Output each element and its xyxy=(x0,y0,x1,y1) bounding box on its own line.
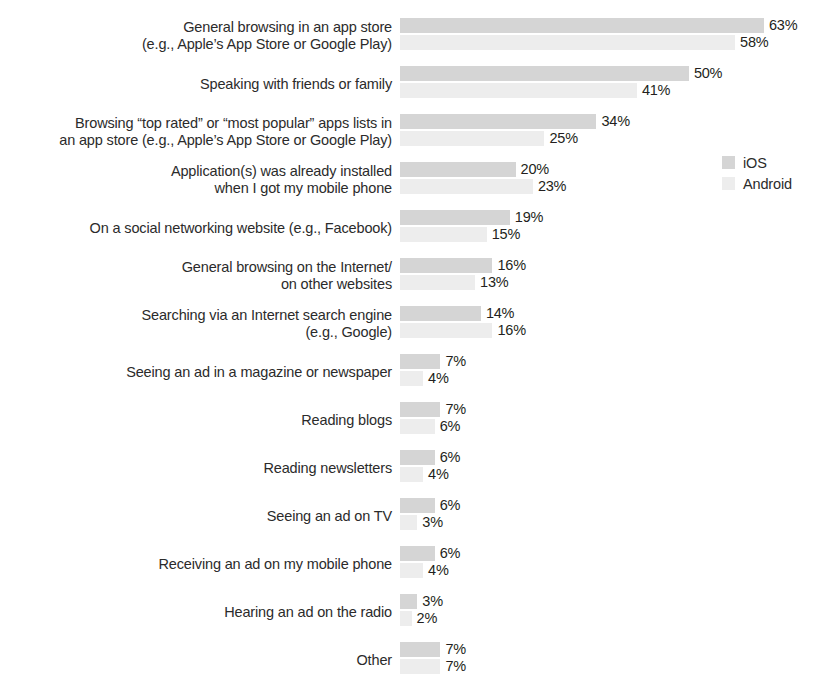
bar-track-android: 3% xyxy=(400,515,443,530)
bar-value-android: 15% xyxy=(487,227,520,242)
bar-android xyxy=(400,179,533,194)
chart-row: Searching via an Internet search engine … xyxy=(0,302,838,346)
bar-value-android: 13% xyxy=(475,275,508,290)
bar-group: 19%15% xyxy=(400,208,838,248)
bar-track-android: 25% xyxy=(400,131,578,146)
bar-android xyxy=(400,323,492,338)
chart-row: Application(s) was already installed whe… xyxy=(0,158,838,202)
bar-track-ios: 34% xyxy=(400,114,630,129)
chart-row: General browsing in an app store (e.g., … xyxy=(0,14,838,58)
bar-track-ios: 14% xyxy=(400,306,514,321)
bar-value-ios: 6% xyxy=(435,498,461,513)
bar-track-android: 4% xyxy=(400,467,449,482)
category-label: Hearing an ad on the radio xyxy=(0,604,400,621)
bar-android xyxy=(400,35,735,50)
bar-group: 7%7% xyxy=(400,640,838,680)
chart-row: General browsing on the Internet/ on oth… xyxy=(0,254,838,298)
category-label: Application(s) was already installed whe… xyxy=(0,163,400,197)
bar-group: 63%58% xyxy=(400,16,838,56)
bar-android xyxy=(400,563,423,578)
bar-track-ios: 6% xyxy=(400,450,460,465)
bar-track-android: 58% xyxy=(400,35,769,50)
bar-group: 7%6% xyxy=(400,400,838,440)
category-label: Seeing an ad on TV xyxy=(0,508,400,525)
bar-track-ios: 19% xyxy=(400,210,543,225)
bar-ios xyxy=(400,402,440,417)
category-label: Reading blogs xyxy=(0,412,400,429)
bar-value-android: 4% xyxy=(423,371,449,386)
bar-value-ios: 6% xyxy=(435,546,461,561)
bar-ios xyxy=(400,162,516,177)
legend-item-ios: iOS xyxy=(722,152,832,173)
bar-value-ios: 16% xyxy=(492,258,525,273)
category-label: Searching via an Internet search engine … xyxy=(0,307,400,341)
bar-track-ios: 63% xyxy=(400,18,797,33)
bar-track-android: 41% xyxy=(400,83,670,98)
bar-ios xyxy=(400,546,435,561)
bar-android xyxy=(400,275,475,290)
bar-android xyxy=(400,515,417,530)
bar-value-android: 16% xyxy=(492,323,525,338)
bar-value-android: 4% xyxy=(423,563,449,578)
bar-track-android: 13% xyxy=(400,275,509,290)
chart-row: Receiving an ad on my mobile phone6%4% xyxy=(0,542,838,586)
bar-ios xyxy=(400,354,440,369)
chart-row: Reading blogs7%6% xyxy=(0,398,838,442)
bar-track-android: 2% xyxy=(400,611,437,626)
bar-value-ios: 7% xyxy=(440,354,466,369)
bar-track-android: 7% xyxy=(400,659,466,674)
bar-group: 6%4% xyxy=(400,544,838,584)
ios-swatch-icon xyxy=(722,156,735,169)
bar-value-android: 23% xyxy=(533,179,566,194)
bar-group: 34%25% xyxy=(400,112,838,152)
bar-track-ios: 50% xyxy=(400,66,722,81)
bar-value-android: 58% xyxy=(735,35,768,50)
chart-row: Seeing an ad in a magazine or newspaper7… xyxy=(0,350,838,394)
category-label: Seeing an ad in a magazine or newspaper xyxy=(0,364,400,381)
legend-label-ios: iOS xyxy=(735,155,767,171)
bar-ios xyxy=(400,210,510,225)
bar-android xyxy=(400,419,435,434)
bar-track-ios: 7% xyxy=(400,354,466,369)
bar-group: 6%4% xyxy=(400,448,838,488)
category-label: On a social networking website (e.g., Fa… xyxy=(0,220,400,237)
bar-value-ios: 50% xyxy=(689,66,722,81)
bar-track-ios: 3% xyxy=(400,594,443,609)
bar-ios xyxy=(400,498,435,513)
bar-group: 3%2% xyxy=(400,592,838,632)
bar-value-android: 25% xyxy=(544,131,577,146)
bar-value-ios: 20% xyxy=(516,162,549,177)
chart-row: Other7%7% xyxy=(0,638,838,682)
bar-android xyxy=(400,131,544,146)
legend-label-android: Android xyxy=(735,176,792,192)
bar-track-android: 4% xyxy=(400,371,449,386)
bar-value-ios: 14% xyxy=(481,306,514,321)
bar-value-android: 3% xyxy=(417,515,443,530)
bar-track-android: 4% xyxy=(400,563,449,578)
bar-track-android: 23% xyxy=(400,179,566,194)
bar-android xyxy=(400,467,423,482)
bar-value-ios: 63% xyxy=(764,18,797,33)
category-label: General browsing on the Internet/ on oth… xyxy=(0,259,400,293)
bar-track-android: 6% xyxy=(400,419,460,434)
bar-android xyxy=(400,371,423,386)
bar-ios xyxy=(400,258,492,273)
grouped-bar-chart: General browsing in an app store (e.g., … xyxy=(0,0,838,691)
bar-value-ios: 3% xyxy=(417,594,443,609)
bar-value-ios: 7% xyxy=(440,642,466,657)
category-label: General browsing in an app store (e.g., … xyxy=(0,19,400,53)
bar-track-ios: 7% xyxy=(400,642,466,657)
bar-group: 16%13% xyxy=(400,256,838,296)
bar-android xyxy=(400,659,440,674)
bar-value-ios: 34% xyxy=(596,114,629,129)
chart-row: Seeing an ad on TV6%3% xyxy=(0,494,838,538)
bar-ios xyxy=(400,114,596,129)
bar-track-ios: 7% xyxy=(400,402,466,417)
bar-value-android: 2% xyxy=(412,611,438,626)
bar-ios xyxy=(400,594,417,609)
bar-track-ios: 6% xyxy=(400,498,460,513)
bar-android xyxy=(400,83,637,98)
bar-track-ios: 20% xyxy=(400,162,549,177)
bar-ios xyxy=(400,306,481,321)
bar-group: 50%41% xyxy=(400,64,838,104)
